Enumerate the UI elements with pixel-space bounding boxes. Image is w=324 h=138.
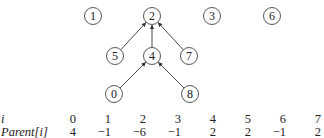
node-5: 5 <box>107 48 124 65</box>
parent-cell: 2 <box>186 125 216 138</box>
node-label: 2 <box>149 9 155 23</box>
parent-array-table: i 0 1 2 3 4 5 6 7 Parent[i] 4 −1 −6 −1 2… <box>0 112 324 138</box>
node-label: 8 <box>187 87 193 101</box>
node-label: 4 <box>149 49 155 63</box>
union-find-forest-diagram: 123654708 <box>0 0 324 110</box>
node-6: 6 <box>264 8 281 25</box>
parent-cell: −1 <box>151 125 181 138</box>
parent-cell: −6 <box>116 125 146 138</box>
parent-cell: 4 <box>46 125 76 138</box>
node-7: 7 <box>181 48 198 65</box>
index-row: i 0 1 2 3 4 5 6 7 <box>0 112 324 125</box>
edge-0-to-4 <box>120 62 146 88</box>
node-3: 3 <box>204 8 221 25</box>
edge-8-to-4 <box>158 62 184 88</box>
parent-cell: 2 <box>291 125 321 138</box>
node-label: 1 <box>90 9 96 23</box>
parent-cell: −1 <box>81 125 111 138</box>
node-label: 3 <box>209 9 215 23</box>
edge-7-to-2 <box>158 23 183 50</box>
node-8: 8 <box>182 86 199 103</box>
node-4: 4 <box>144 48 161 65</box>
node-2: 2 <box>144 8 161 25</box>
parent-row: Parent[i] 4 −1 −6 −1 2 2 −1 2 <box>0 125 324 138</box>
parent-row-label: Parent[i] <box>1 125 48 138</box>
node-label: 7 <box>186 49 192 63</box>
node-label: 0 <box>111 87 117 101</box>
nodes-group: 123654708 <box>85 8 281 103</box>
node-0: 0 <box>106 86 123 103</box>
node-label: 6 <box>269 9 275 23</box>
node-1: 1 <box>85 8 102 25</box>
parent-cell: −1 <box>256 125 286 138</box>
node-label: 5 <box>112 49 118 63</box>
edge-5-to-2 <box>121 23 146 50</box>
parent-cell: 2 <box>221 125 251 138</box>
